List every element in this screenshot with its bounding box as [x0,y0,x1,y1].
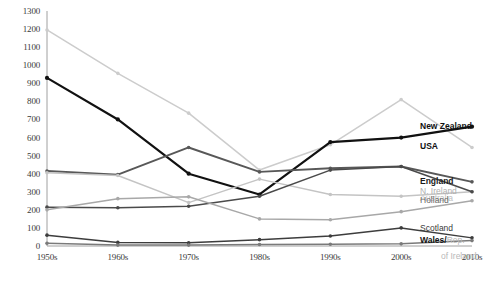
y-tick-label: 400 [6,169,40,179]
data-point [470,146,474,150]
data-point [329,218,333,222]
data-point [470,180,474,184]
y-tick-label: 300 [6,187,40,197]
data-point [399,210,403,214]
data-point [45,208,49,212]
data-point [258,238,262,242]
y-tick-label: 100 [6,223,40,233]
data-point [329,168,333,172]
data-point [116,174,120,178]
y-tick-label: 800 [6,96,40,106]
series-scotland [45,226,474,244]
x-tick-label: 1980s [237,252,283,262]
data-point [399,242,403,246]
data-point [116,206,120,210]
y-tick-label: 1200 [6,24,40,34]
data-point [187,172,191,176]
data-point [187,201,191,205]
x-tick-label: 1960s [95,252,141,262]
data-point [399,226,403,230]
data-point [116,117,120,121]
series-label-usa: USA [420,142,438,152]
series-usa [45,28,474,172]
data-point [45,171,49,175]
data-point [187,243,191,247]
data-point [470,199,474,203]
data-point [258,194,262,198]
data-point [399,98,403,102]
data-point [45,28,49,32]
x-tick-label: 1950s [24,252,70,262]
data-point [116,197,120,201]
series-label-holland: Holland [420,196,449,206]
y-tick-label: 0 [6,241,40,251]
series-label-wales-of-ireland: of Ireland [441,252,476,262]
data-point [329,193,333,197]
y-tick-label: 1300 [6,6,40,16]
data-point [258,177,262,181]
data-point [470,239,474,243]
series-line [47,147,472,181]
data-point [187,146,191,150]
data-point [329,234,333,238]
data-point [258,217,262,221]
series-label-new-zealand: New Zealand [420,122,472,132]
data-point [45,233,49,237]
y-tick-label: 200 [6,205,40,215]
y-tick-label: 500 [6,151,40,161]
series-label-wales: Wales/Rep. [420,236,465,246]
data-point [329,242,333,246]
data-point [45,241,49,245]
data-point [45,76,49,80]
data-point [399,165,403,169]
data-point [116,72,120,76]
data-point [328,140,332,144]
data-point [258,243,262,247]
data-point [187,111,191,115]
data-point [187,195,191,199]
series-label-england: England [420,177,454,187]
data-point [399,194,403,198]
x-tick-label: 2000s [378,252,424,262]
series-group [45,28,474,247]
x-tick-label: 1990s [307,252,353,262]
y-tick-label: 1000 [6,60,40,70]
data-point [187,204,191,208]
y-tick-label: 600 [6,133,40,143]
data-point [258,170,262,174]
x-tick-label: 1970s [166,252,212,262]
y-tick-label: 700 [6,114,40,124]
y-tick-label: 900 [6,78,40,88]
data-point [399,135,403,139]
data-point [470,190,474,194]
y-tick-label: 1100 [6,42,40,52]
series-line [47,30,472,170]
data-point [116,243,120,247]
series-label-scotland: Scotland [420,224,453,234]
series-line [47,173,472,203]
series-line [47,78,472,195]
